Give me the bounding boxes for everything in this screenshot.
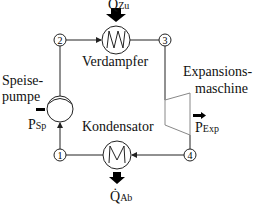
pump-power-label: PSp: [28, 117, 46, 133]
heat-in-label: Q̇Zu: [108, 0, 129, 13]
orc-diagram: 2 3 4 1: [0, 0, 266, 218]
evaporator-icon: [102, 26, 130, 54]
pump-icon: [47, 96, 73, 122]
expander-label-line2: maschine: [195, 81, 248, 97]
svg-text:1: 1: [58, 150, 63, 161]
condenser-icon: [103, 141, 131, 169]
pump-power-bar: [36, 108, 45, 111]
cycle-schematic: 2 3 4 1: [0, 0, 266, 218]
pump-label-line2: pumpe: [2, 89, 40, 105]
expander-icon: [165, 93, 190, 135]
svg-text:3: 3: [163, 35, 168, 46]
svg-text:2: 2: [58, 35, 63, 46]
expander-power-arrow-icon: [193, 112, 206, 119]
pump-label-line1: Speise-: [2, 73, 43, 89]
evaporator-label: Verdampfer: [82, 54, 148, 70]
node-4: 4: [184, 149, 196, 161]
svg-text:4: 4: [188, 150, 193, 161]
expander-label-line1: Expansions-: [183, 64, 252, 80]
heat-out-arrow-icon: [109, 172, 125, 184]
node-3: 3: [159, 34, 171, 46]
node-2: 2: [54, 34, 66, 46]
node-1: 1: [54, 149, 66, 161]
expander-power-label: PExp: [195, 120, 219, 136]
condenser-label: Kondensator: [82, 119, 154, 135]
heat-out-label: Q̇Ab: [110, 189, 132, 205]
